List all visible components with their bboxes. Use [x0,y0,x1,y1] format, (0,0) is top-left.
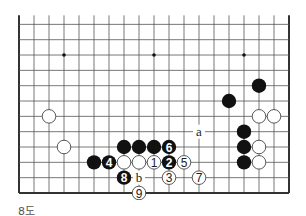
white-stone-9: 9 [132,186,146,200]
white-stone [57,140,71,154]
black-stone [132,140,146,154]
black-stone-8: 8 [117,170,131,185]
white-stone [252,156,266,170]
move-number: 2 [166,156,173,170]
star-point-icon [152,53,156,57]
black-stone [222,94,236,108]
white-stone-3: 3 [162,171,176,185]
black-stone [117,140,131,154]
move-number: 8 [121,171,128,185]
white-stone [252,140,266,154]
black-stone [252,78,266,92]
white-stone [267,110,281,124]
move-number: 7 [196,171,203,185]
black-stone-4: 4 [102,155,116,170]
position-marker-a: a [196,124,202,139]
white-stone-5: 5 [177,156,191,170]
white-stone [132,156,146,170]
white-stone [117,156,131,170]
position-marker-b: b [136,170,143,185]
star-point-icon [62,53,66,57]
move-number: 5 [181,156,188,170]
diagram-caption: 8도 [18,202,35,216]
black-stone-2: 2 [162,155,176,170]
white-stone [42,110,56,124]
star-point-icon [242,53,246,57]
move-number: 1 [151,156,158,170]
move-number: 9 [136,187,143,201]
move-number: 3 [166,171,173,185]
go-board: ab 641258379 [0,0,306,200]
black-stone [87,155,101,169]
white-stone-7: 7 [192,171,206,185]
black-stone [237,155,251,169]
white-stone-1: 1 [147,156,161,170]
move-number: 4 [106,156,113,170]
move-number: 6 [166,141,173,155]
black-stone [237,140,251,154]
black-stone [147,140,161,154]
black-stone [237,124,251,138]
black-stone-6: 6 [162,140,176,155]
white-stone [252,110,266,124]
stones: 641258379 [42,78,281,200]
